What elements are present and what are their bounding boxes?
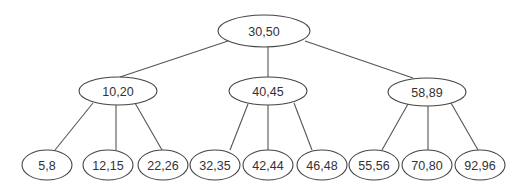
node-label: 5,8 xyxy=(38,159,55,173)
tree-node-m2: 42,44 xyxy=(243,150,293,180)
edge-m-m3 xyxy=(294,103,312,150)
tree-node-l2: 12,15 xyxy=(83,150,133,180)
edge-r-r1 xyxy=(382,104,408,150)
tree-node-r3: 92,96 xyxy=(455,150,505,180)
node-label: 42,44 xyxy=(252,159,283,173)
edge-l-l3 xyxy=(135,103,162,150)
tree-diagram: 30,5010,2040,4558,895,812,1522,2632,3542… xyxy=(0,0,529,192)
node-label: 70,80 xyxy=(411,159,442,173)
tree-node-m: 40,45 xyxy=(229,77,307,105)
tree-node-m3: 46,48 xyxy=(297,150,347,180)
node-label: 92,96 xyxy=(464,159,495,173)
tree-node-m1: 32,35 xyxy=(190,150,240,180)
node-label: 22,26 xyxy=(147,159,178,173)
node-label: 58,89 xyxy=(411,86,442,100)
node-label: 12,15 xyxy=(92,159,123,173)
node-label: 46,48 xyxy=(306,159,337,173)
tree-node-r1: 55,56 xyxy=(349,150,399,180)
tree-node-l1: 5,8 xyxy=(22,150,72,180)
tree-node-l: 10,20 xyxy=(79,77,157,105)
edge-m-m1 xyxy=(230,104,248,150)
node-label: 30,50 xyxy=(248,25,279,39)
tree-node-root: 30,50 xyxy=(218,15,310,47)
nodes: 30,5010,2040,4558,895,812,1522,2632,3542… xyxy=(22,15,505,180)
tree-node-r: 58,89 xyxy=(388,78,466,106)
edge-l-l1 xyxy=(55,103,93,150)
node-label: 40,45 xyxy=(252,85,283,99)
edge-r-r3 xyxy=(451,103,478,150)
node-label: 55,56 xyxy=(358,159,389,173)
edge-root-r xyxy=(305,41,413,78)
tree-node-r2: 70,80 xyxy=(402,150,452,180)
node-label: 10,20 xyxy=(102,85,133,99)
node-label: 32,35 xyxy=(199,159,230,173)
tree-node-l3: 22,26 xyxy=(138,150,188,180)
edge-root-l xyxy=(120,41,228,77)
